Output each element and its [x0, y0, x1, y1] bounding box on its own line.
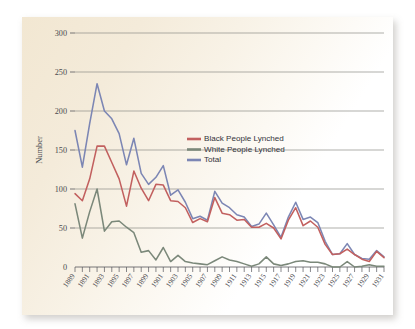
line-chart: 0501001502002503001889189118931895189718…: [22, 17, 393, 315]
y-tick-label: 250: [55, 68, 67, 77]
x-tick-label: 1905: [179, 272, 195, 290]
x-tick-label: 1911: [223, 272, 239, 289]
x-tick-label: 1907: [193, 272, 209, 290]
x-tick-label: 1889: [61, 272, 77, 290]
x-tick-label: 1903: [164, 272, 180, 290]
x-tick-label: 1929: [355, 272, 371, 290]
x-tick-label: 1891: [76, 272, 92, 290]
x-tick-label: 1917: [267, 272, 283, 290]
x-tick-label: 1925: [326, 272, 342, 290]
x-tick-label: 1915: [252, 272, 268, 290]
y-tick-label: 300: [55, 29, 67, 38]
x-tick-label: 1919: [282, 272, 298, 290]
x-tick-label: 1899: [134, 272, 150, 290]
y-axis-title: Number: [35, 136, 44, 164]
x-tick-label: 1923: [311, 272, 327, 290]
figure: 0501001502002503001889189118931895189718…: [0, 0, 415, 329]
y-tick-label: 100: [55, 185, 67, 194]
y-tick-label: 0: [63, 263, 67, 272]
y-tick-label: 200: [55, 107, 67, 116]
legend-label-white-people-lynched: White People Lynched: [204, 145, 285, 154]
x-tick-label: 1893: [90, 272, 106, 290]
x-tick-label: 1931: [370, 272, 386, 290]
x-tick-label: 1909: [208, 272, 224, 290]
series-line-total: [75, 84, 384, 260]
legend-label-black-people-lynched: Black People Lynched: [204, 134, 284, 143]
y-tick-label: 150: [55, 146, 67, 155]
x-tick-label: 1927: [340, 272, 356, 290]
x-tick-label: 1913: [237, 272, 253, 290]
x-tick-label: 1897: [120, 272, 136, 290]
series-line-black-people-lynched: [75, 146, 384, 261]
legend-label-total: Total: [204, 155, 221, 164]
x-tick-label: 1921: [296, 272, 312, 290]
x-tick-label: 1901: [149, 272, 165, 290]
chart-panel: 0501001502002503001889189118931895189718…: [22, 17, 393, 315]
x-tick-label: 1895: [105, 272, 121, 290]
y-tick-label: 50: [59, 224, 67, 233]
